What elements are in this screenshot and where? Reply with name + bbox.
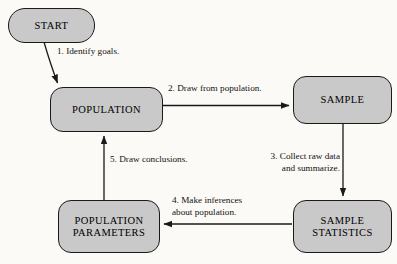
edge-label-collect-raw-data: 3. Collect raw data and summarize. — [236, 151, 340, 174]
node-sample[interactable]: SAMPLE — [293, 76, 392, 124]
node-sample-statistics[interactable]: SAMPLE STATISTICS — [293, 200, 392, 253]
node-start[interactable]: START — [8, 8, 95, 43]
edge-label-draw-from-population: 2. Draw from population. — [168, 83, 262, 95]
node-population-label: POPULATION — [72, 104, 141, 116]
node-population[interactable]: POPULATION — [50, 87, 163, 132]
statistics-flow-diagram: START POPULATION SAMPLE SAMPLE STATISTIC… — [0, 0, 397, 264]
node-sample-label: SAMPLE — [321, 94, 365, 106]
arrow-start-to-population — [44, 42, 58, 83]
node-sample-statistics-label: SAMPLE STATISTICS — [294, 215, 391, 239]
edge-label-draw-conclusions: 5. Draw conclusions. — [110, 154, 188, 166]
node-population-parameters[interactable]: POPULATION PARAMETERS — [58, 200, 160, 253]
node-start-label: START — [35, 20, 69, 32]
node-population-parameters-label: POPULATION PARAMETERS — [59, 215, 159, 239]
edge-label-make-inferences: 4. Make inferences about population. — [172, 195, 242, 218]
edge-label-identify-goals: 1. Identify goals. — [57, 46, 119, 58]
